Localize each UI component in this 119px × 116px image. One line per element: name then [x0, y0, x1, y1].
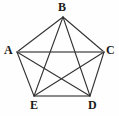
vertex-label-B: B [58, 1, 66, 13]
pentagon-graph-svg [0, 0, 119, 116]
diagonal-C-E [34, 52, 104, 96]
diagonal-A-D [17, 52, 90, 96]
vertex-label-A: A [4, 44, 13, 56]
vertex-label-C: C [106, 44, 115, 56]
edge-C-D [90, 52, 104, 96]
pentagon-diagram: A B C D E [0, 0, 119, 116]
edge-E-A [17, 52, 34, 96]
diagonal-B-E [34, 17, 63, 96]
vertex-label-D: D [88, 99, 97, 111]
vertex-label-E: E [30, 99, 38, 111]
